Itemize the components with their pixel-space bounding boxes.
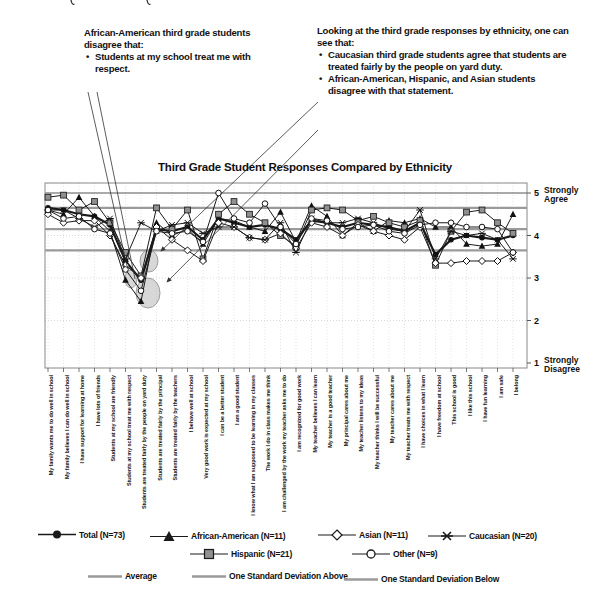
- gray-filled-square-marker: [61, 192, 67, 198]
- x-category-label: I have freedom at school: [436, 375, 443, 535]
- x-category-label: My teacher cares about me: [389, 375, 396, 535]
- gray-filled-square-marker: [510, 230, 516, 236]
- x-category-label: I am safe: [498, 375, 505, 535]
- x-category-label: My teacher is a good teacher: [327, 375, 334, 535]
- filled-triangle-marker: [76, 194, 83, 200]
- annotation-arrow: [167, 130, 318, 282]
- legend-item-caucasian: Caucasian (N=20): [428, 530, 537, 542]
- gray-filled-square-marker: [154, 205, 160, 211]
- sd-above-line-icon: [192, 573, 226, 580]
- open-circle-marker: [154, 228, 160, 234]
- x-category-label: Students are treated fairly by the teach…: [172, 375, 179, 535]
- open-circle-marker: [76, 214, 82, 220]
- open-circle-marker: [309, 216, 315, 222]
- african-american-filled-triangle-icon: [150, 530, 188, 542]
- cropped-text-remnant: [147, 0, 151, 4]
- gray-filled-square-marker: [479, 207, 485, 213]
- legend-item-other: Other (N=9): [352, 548, 437, 560]
- gray-filled-square-marker: [262, 220, 268, 226]
- x-category-label: Students are treated fairly by the princ…: [157, 375, 164, 535]
- asterisk-marker: [509, 256, 517, 262]
- x-category-label: My teacher thinks I will be successful: [374, 375, 381, 535]
- open-circle-marker: [262, 201, 268, 207]
- open-circle-marker: [386, 228, 392, 234]
- filled-circle-marker: [448, 237, 454, 243]
- gray-filled-square-marker: [45, 194, 51, 200]
- open-circle-marker: [123, 267, 129, 273]
- y-axis-bottom-label: Strongly Disagree: [544, 356, 596, 374]
- x-category-label: The work I do in class makes me think: [265, 375, 272, 535]
- gray-filled-square-marker: [386, 220, 392, 226]
- annotation-right: Looking at the third grade responses by …: [317, 25, 573, 96]
- open-diamond-marker: [448, 260, 455, 267]
- chart-title: Third Grade Student Responses Compared b…: [140, 161, 470, 173]
- open-circle-marker: [479, 224, 485, 230]
- open-circle-marker: [433, 220, 439, 226]
- x-category-label: This school is good: [451, 375, 458, 535]
- x-category-label: I know what I am supposed to be learning…: [250, 375, 257, 535]
- x-category-label: I am challenged by the work my teacher a…: [281, 375, 288, 535]
- total-filled-circle-icon: [38, 529, 76, 540]
- legend-item-asian: Asian (N=11): [318, 529, 408, 541]
- open-circle-marker: [61, 216, 67, 222]
- open-circle-marker: [324, 218, 330, 224]
- annotation-left: African-American third grade students di…: [84, 27, 256, 74]
- gray-filled-square-marker: [464, 209, 470, 215]
- sd-below-line-icon: [344, 576, 378, 583]
- gray-filled-square-marker: [247, 211, 253, 217]
- asian-open-diamond-icon: [318, 529, 356, 541]
- gray-filled-square-marker: [371, 213, 377, 219]
- x-category-label: My family wants me to do well in school: [48, 375, 55, 535]
- asterisk-marker: [137, 220, 145, 226]
- x-category-label: My principal cares about me: [343, 375, 350, 535]
- annotation-left-bullet: Students at my school treat me with resp…: [84, 51, 256, 74]
- x-category-label: I have fun learning: [482, 375, 489, 535]
- open-circle-marker: [247, 220, 253, 226]
- open-circle-marker: [278, 224, 284, 230]
- plot-frame: [45, 183, 527, 368]
- filled-triangle-marker: [494, 240, 501, 246]
- legend-item-total: Total (N=73): [38, 529, 125, 540]
- annotation-right-heading: Looking at the third grade responses by …: [317, 25, 573, 48]
- y-axis-top-label: Strongly Agree: [544, 186, 596, 204]
- legend-item-sd-above: One Standard Deviation Above: [192, 571, 348, 581]
- open-circle-marker: [45, 207, 51, 213]
- annotation-right-bullet-1: Caucasian third grade students agree tha…: [317, 49, 573, 72]
- gray-filled-square-marker: [92, 199, 98, 205]
- open-diamond-marker: [479, 258, 486, 265]
- cropped-text-remnant: [71, 0, 75, 4]
- other-open-circle-icon: [352, 548, 390, 560]
- legend-item-average: Average: [88, 571, 157, 581]
- open-circle-marker: [92, 226, 98, 232]
- x-category-label: My family believes I can do well in scho…: [64, 375, 71, 535]
- x-category-label: I am recognized for good work: [296, 375, 303, 535]
- open-circle-marker: [495, 226, 501, 232]
- open-circle-marker: [402, 231, 408, 237]
- caucasian-asterisk-icon: [428, 530, 466, 542]
- x-category-label: I like this school: [467, 375, 474, 535]
- gray-filled-square-marker: [231, 199, 237, 205]
- open-circle-marker: [107, 231, 113, 237]
- y-tick-label: 2: [534, 316, 539, 326]
- x-category-label: Students are treated fairly by the peopl…: [141, 375, 148, 535]
- hispanic-gray-square-icon: [190, 548, 228, 560]
- annotation-right-bullet-2: African-American, Hispanic, and Asian st…: [317, 73, 573, 96]
- legend-item-sd-below: One Standard Deviation Below: [344, 574, 499, 584]
- legend-item-hispanic: Hispanic (N=21): [190, 548, 292, 560]
- x-category-label: I belong: [513, 375, 520, 535]
- x-category-label: Students at my school treat me with resp…: [126, 375, 133, 535]
- gray-filled-square-marker: [76, 207, 82, 213]
- x-category-label: My teacher believes I can learn: [312, 375, 319, 535]
- y-tick-label: 3: [534, 273, 539, 283]
- legend-item-african-american: African-American (N=11): [150, 530, 285, 542]
- x-category-label: Students at my school are friendly: [110, 375, 117, 535]
- gray-filled-square-marker: [340, 207, 346, 213]
- open-circle-marker: [510, 250, 516, 256]
- annotation-line: [88, 92, 127, 266]
- open-circle-marker: [185, 228, 191, 234]
- x-category-label: I have choices in what I learn: [420, 375, 427, 535]
- x-category-label: I have support for learning at home: [79, 375, 86, 535]
- x-category-label: I have lots of friends: [95, 375, 102, 535]
- x-category-label: My teacher listens to my ideas: [358, 375, 365, 535]
- x-category-label: I behave well at school: [188, 375, 195, 535]
